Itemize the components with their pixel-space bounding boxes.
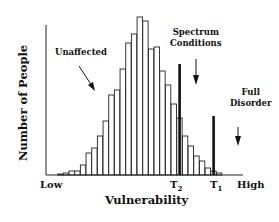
x-tick-t1: T1 xyxy=(210,179,222,193)
full-disorder-arrow-icon xyxy=(235,127,241,146)
x-tick-t2: T2 xyxy=(170,179,182,193)
histogram-bar xyxy=(120,69,125,175)
histogram-bar xyxy=(165,85,170,175)
spectrum-conditions-label: Spectrum Conditions xyxy=(170,27,222,49)
histogram-bar xyxy=(131,34,136,175)
x-tick-low: Low xyxy=(40,179,62,190)
unaffected-label: Unaffected xyxy=(55,47,107,58)
t2-sub: 2 xyxy=(177,184,182,193)
x-axis-label: Vulnerability xyxy=(105,193,188,207)
histogram-bar xyxy=(86,153,91,175)
histogram-bar xyxy=(103,121,108,175)
full-disorder-label: Full Disorder xyxy=(230,87,271,109)
full-label-line2: Disorder xyxy=(230,98,271,109)
histogram-bar xyxy=(205,168,210,175)
unaffected-arrow-icon xyxy=(79,66,95,91)
histogram-bar xyxy=(171,104,176,175)
histogram-bar xyxy=(143,21,148,175)
histogram-bar xyxy=(182,136,187,175)
spectrum-label-line1: Spectrum xyxy=(170,27,222,38)
spectrum-arrow-icon xyxy=(193,59,199,85)
t1-sub: 1 xyxy=(217,184,222,193)
threshold-t1-bar xyxy=(212,116,215,175)
histogram-bar xyxy=(109,95,114,175)
threshold-t2-bar xyxy=(178,64,181,175)
histogram-bar xyxy=(92,148,97,175)
x-tick-high: High xyxy=(237,179,265,190)
histogram-bar xyxy=(137,17,142,175)
histogram-bar xyxy=(148,49,153,175)
histogram-bar xyxy=(97,136,102,175)
full-label-line1: Full xyxy=(230,87,271,98)
histogram-bar xyxy=(114,90,119,175)
histogram-bar xyxy=(194,156,199,175)
histogram-bar xyxy=(69,171,74,175)
histogram-bar xyxy=(154,47,159,175)
histogram-bar xyxy=(160,71,165,175)
histogram-bar xyxy=(126,43,131,175)
histogram-bar xyxy=(188,146,193,175)
y-axis-label: Number of People xyxy=(16,45,30,161)
spectrum-label-line2: Conditions xyxy=(170,38,222,49)
histogram-bar xyxy=(75,171,80,175)
histogram-bar xyxy=(199,161,204,175)
histogram-bar xyxy=(80,165,85,175)
